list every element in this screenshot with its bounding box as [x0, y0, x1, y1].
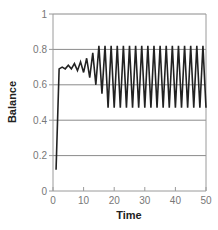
y-tick-label: 0.6: [33, 79, 47, 90]
x-axis-ticks: 01020304050: [50, 187, 212, 206]
balance-line: [56, 46, 206, 170]
y-tick-label: 0: [41, 186, 47, 197]
y-tick-label: 0.8: [33, 44, 47, 55]
y-tick-label: 0.4: [33, 115, 47, 126]
x-tick-label: 50: [200, 195, 212, 206]
y-tick-label: 0.2: [33, 150, 47, 161]
x-tick-label: 20: [109, 195, 121, 206]
x-tick-label: 40: [170, 195, 182, 206]
data-series: [56, 46, 206, 170]
line-chart: 00.20.40.60.81 01020304050 Time Balance: [0, 0, 218, 230]
y-axis-ticks: 00.20.40.60.81: [33, 9, 53, 197]
axes: [53, 14, 206, 191]
y-tick-label: 1: [41, 9, 47, 20]
x-tick-label: 10: [78, 195, 90, 206]
x-tick-label: 0: [50, 195, 56, 206]
x-tick-label: 30: [139, 195, 151, 206]
y-axis-title: Balance: [6, 81, 18, 123]
x-axis-title: Time: [116, 209, 141, 221]
